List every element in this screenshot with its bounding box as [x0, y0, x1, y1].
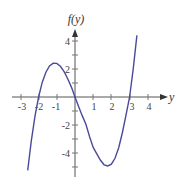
x-axis-title: y [168, 90, 175, 104]
y-axis: 4 2 -2 -4 f(y) [62, 12, 85, 177]
x-tick-label: 4 [147, 101, 152, 112]
x-tick-label: 3 [130, 101, 135, 112]
y-tick-label: 4 [65, 36, 70, 47]
x-axis-arrow-icon [160, 94, 168, 100]
y-axis-arrow-icon [72, 29, 78, 37]
x-tick-label: -1 [52, 101, 60, 112]
function-curve [28, 35, 137, 170]
function-graph: -3 -2 -1 1 2 3 4 y 4 2 -2 -4 f(y) [0, 0, 182, 185]
y-tick-label: -2 [62, 120, 70, 131]
x-tick-label: 1 [92, 101, 97, 112]
y-tick-label: -4 [62, 148, 70, 159]
y-axis-title: f(y) [68, 12, 85, 26]
x-tick-label: -3 [18, 101, 26, 112]
y-tick-label: 2 [65, 64, 70, 75]
x-tick-label: 2 [110, 101, 115, 112]
